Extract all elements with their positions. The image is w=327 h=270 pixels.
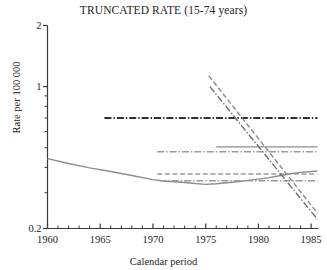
y-tick-label: 2	[36, 20, 41, 31]
axes	[43, 26, 319, 229]
x-tick-label: 1960	[37, 234, 58, 245]
y-tick-label: 0.2	[28, 223, 41, 234]
y-tick-label: 1	[36, 81, 41, 92]
x-tick-label: 1985	[301, 234, 322, 245]
x-tick-label: 1970	[142, 234, 163, 245]
tick-labels: 0.212196019651970197519801985	[28, 20, 321, 244]
x-tick-label: 1965	[90, 234, 111, 245]
chart-figure: TRUNCATED RATE (15-74 years) Rate per 10…	[0, 0, 327, 270]
data-series	[48, 76, 318, 219]
x-tick-label: 1980	[248, 234, 269, 245]
series-projection-decline-upper	[209, 76, 318, 213]
x-tick-label: 1975	[195, 234, 216, 245]
series-projection-decline-lower	[210, 87, 318, 220]
plot-area: 0.212196019651970197519801985	[0, 0, 327, 270]
